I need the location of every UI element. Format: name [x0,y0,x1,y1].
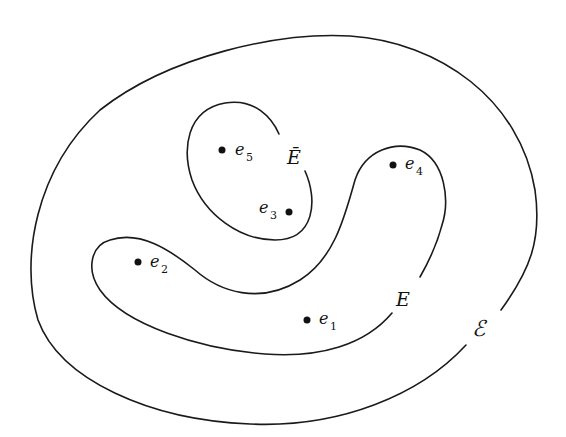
dot-icon [219,147,226,154]
point-e2: e 2 [135,252,169,276]
outer-set-boundary [31,36,537,425]
dot-icon [286,209,293,216]
label-outer-set: ℰ [472,316,488,341]
point-subscript: 2 [161,263,168,276]
dot-icon [135,259,142,266]
point-e4: e 4 [390,154,424,178]
point-label: e [235,140,244,159]
set-E-boundary [92,146,446,354]
set-E-bar-boundary [187,102,312,240]
label-set-E-bar: Ē [286,146,301,168]
point-subscript: 5 [246,151,253,164]
point-e5: e 5 [219,140,254,164]
point-subscript: 4 [416,165,423,178]
point-e3: e 3 [259,198,293,222]
venn-diagram: ℰ E Ē e 1 e 2 e 3 e 4 e 5 [0,0,566,437]
dot-icon [390,162,397,169]
label-set-E: E [395,288,410,310]
point-subscript: 3 [270,209,277,222]
point-label: e [319,309,328,328]
point-label: e [150,252,159,271]
point-e1: e 1 [304,309,338,333]
point-label: e [259,198,268,217]
dot-icon [304,317,311,324]
point-label: e [405,154,414,173]
point-subscript: 1 [330,320,337,333]
